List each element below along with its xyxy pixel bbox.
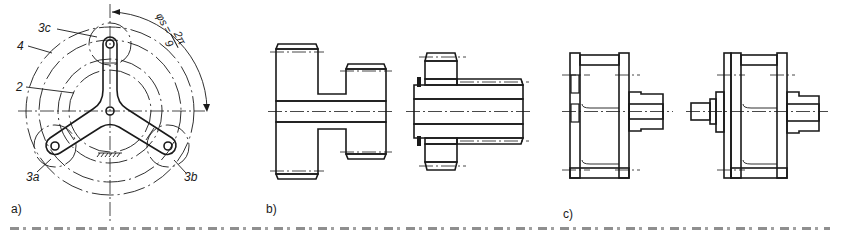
retaining-ring-top <box>417 77 421 87</box>
figure-caption-cropped <box>10 225 830 230</box>
caption-glyph-tops <box>10 227 830 230</box>
callout-3a: 3a <box>26 171 39 183</box>
planet-carrier <box>46 37 176 155</box>
panel-label-a: a) <box>11 203 22 215</box>
panel-label-b: b) <box>266 203 277 215</box>
callout-3b: 3b <box>184 171 197 183</box>
technical-figure: 3c 4 2 3a 3b φs = 2π 9 a) b) c) <box>0 0 843 230</box>
output-flange <box>716 92 724 132</box>
callout-3c: 3c <box>38 22 51 34</box>
callout-2: 2 <box>16 81 23 93</box>
panel-b-drawing <box>268 44 530 179</box>
angle-denominator: 9 <box>163 38 176 49</box>
callout-4: 4 <box>17 40 24 52</box>
planet-3b-circle <box>147 125 189 167</box>
panel-c-drawing <box>562 53 828 178</box>
ground-hatch <box>97 153 120 157</box>
retaining-ring-bottom <box>417 136 421 146</box>
drawing-canvas <box>0 0 843 230</box>
panel-label-c: c) <box>563 208 573 220</box>
